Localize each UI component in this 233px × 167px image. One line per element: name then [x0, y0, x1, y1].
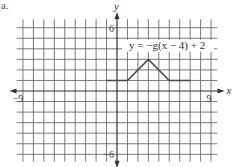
y-axis-arrow-up-icon	[115, 12, 120, 19]
x-tick-label: −9	[13, 93, 24, 104]
x-axis-label: x	[226, 84, 232, 96]
graph: a. x y −996−6 y = −g(x − 4) + 2	[0, 0, 233, 167]
equation-label: y = −g(x − 4) + 2	[129, 39, 205, 52]
axes: x y	[10, 0, 232, 167]
y-tick-label: −6	[103, 149, 114, 160]
y-axis-label: y	[113, 0, 119, 12]
problem-label: a.	[1, 0, 9, 11]
annotations: y = −g(x − 4) + 2	[122, 39, 214, 52]
x-axis-arrow-right-icon	[218, 89, 225, 94]
y-tick-label: 6	[109, 23, 114, 34]
y-axis-arrow-down-icon	[115, 161, 120, 167]
x-tick-label: 9	[207, 93, 212, 104]
